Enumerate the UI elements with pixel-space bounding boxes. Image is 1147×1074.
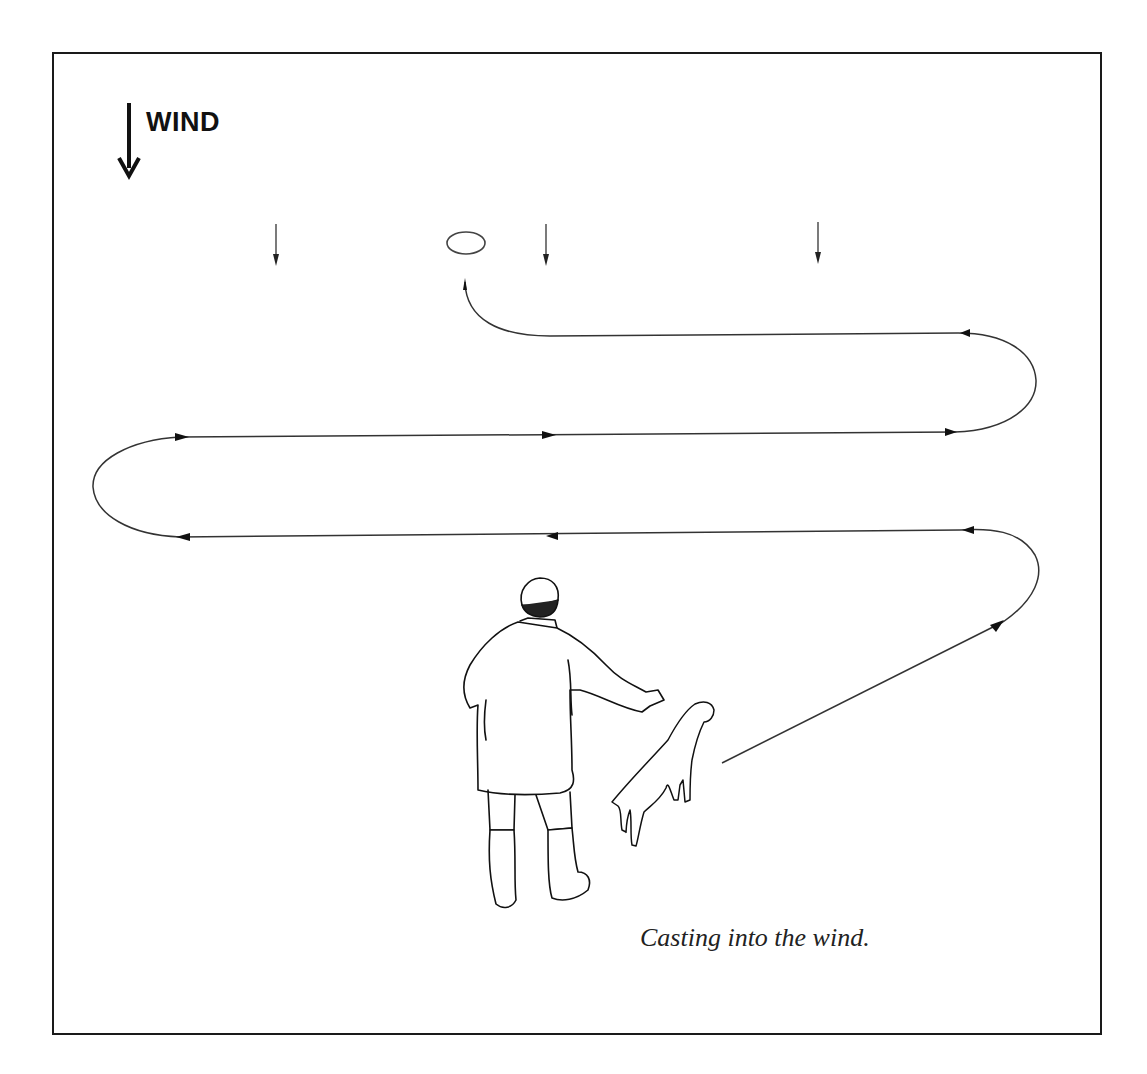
small-wind-arrow-icon [815, 222, 821, 264]
dog-figure [612, 702, 714, 846]
wind-arrow-icon [119, 103, 139, 176]
handler-figure [464, 578, 664, 907]
target-marker [447, 232, 485, 254]
path-arrowheads [175, 278, 1004, 632]
casting-diagram [0, 0, 1147, 1074]
wind-label: WIND [146, 107, 220, 138]
figure-caption: Casting into the wind. [640, 923, 870, 953]
small-wind-arrow-icon [273, 224, 279, 266]
small-wind-arrow-icon [543, 224, 549, 266]
